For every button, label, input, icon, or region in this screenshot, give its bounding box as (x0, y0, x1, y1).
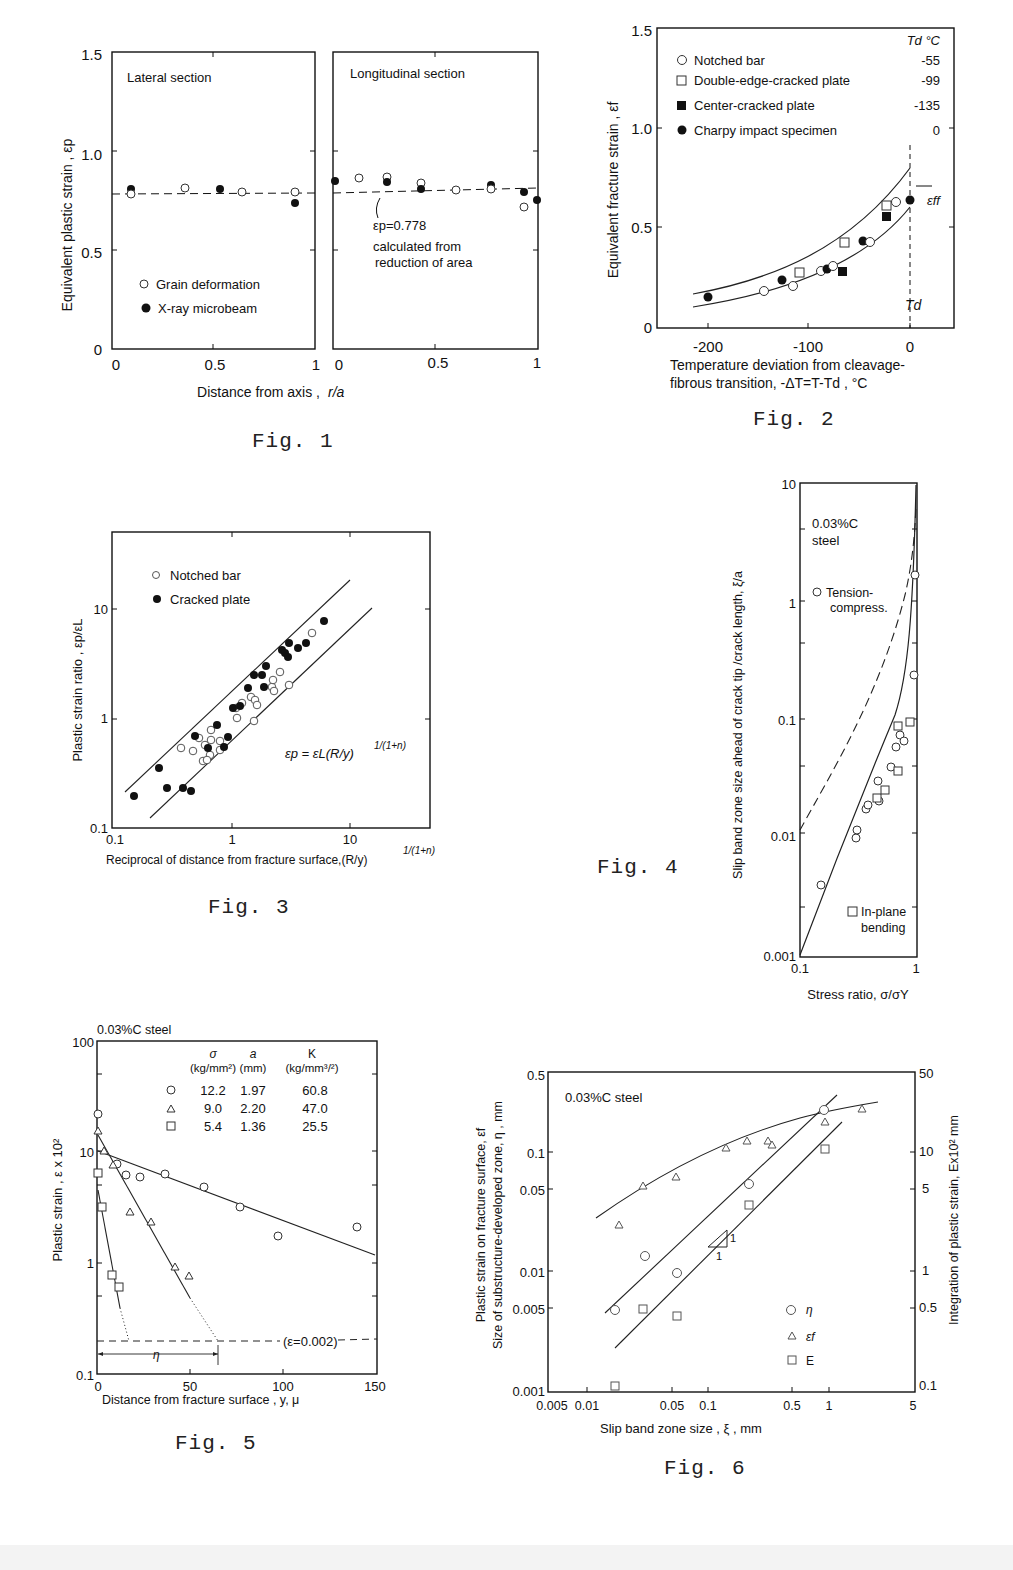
fig2-legend-item: Charpy impact specimen (694, 123, 837, 138)
fig6-ytick-left: 0.05 (520, 1183, 545, 1198)
fig1-panel-label-longitudinal: Longitudinal section (350, 66, 465, 81)
fig1-annotation-line2: calculated from (373, 239, 461, 254)
fig5-header-a-unit: (mm) (240, 1062, 267, 1074)
fig2-legend-item: Center-cracked plate (694, 98, 815, 113)
fig6-ytick-right: 10 (919, 1144, 933, 1159)
fig5-xlabel: Distance from fracture surface , y, μ (102, 1393, 299, 1407)
fig6-xtick: 0.1 (699, 1399, 716, 1413)
fig2-caption: Fig. 2 (753, 408, 835, 431)
fig4-ytick: 0.01 (771, 829, 796, 844)
figure-4: Slip band zone size ahead of crack tip /… (730, 475, 960, 1005)
fig6-xlabel: Slip band zone size , ξ , mm (600, 1421, 762, 1436)
fig5-xtick: 150 (364, 1379, 386, 1394)
fig6-chart: Plastic strain on fracture surface, εf S… (470, 1060, 970, 1440)
fig2-chart: Equivalent fracture strain , εf 0 0.5 1.… (600, 20, 960, 400)
fig5-xtick: 0 (94, 1379, 101, 1394)
fig1-xlabel-var: r/a (328, 384, 345, 400)
fig1-legend-open: Grain deformation (156, 277, 260, 292)
fig1-legend-filled: X-ray microbeam (158, 301, 257, 316)
legend-triangle-icon (167, 1105, 175, 1112)
legend-open-circle-icon (678, 56, 687, 65)
legend-open-circle-icon (813, 588, 821, 596)
fig2-xtick: -200 (693, 338, 723, 355)
fig1-annotation-line3: reduction of area (375, 255, 473, 270)
fig6-xtick: 1 (826, 1399, 833, 1413)
figure-5: 0.03%C steel Plastic strain , ε x 10² 10… (40, 1020, 400, 1405)
fig1-caption: Fig. 1 (252, 430, 334, 453)
fig6-legend-eta: η (806, 1303, 813, 1317)
fig6-line-eta (605, 1095, 837, 1313)
fig1-xtick: 0.5 (428, 354, 449, 371)
fig6-ytick-left: 0.001 (512, 1384, 545, 1399)
fig2-lower-curve (693, 207, 910, 307)
fig5-header-k: K (308, 1047, 316, 1061)
fig6-ylabel-right: Integration of plastic strain, Ex10² mm (947, 1115, 961, 1325)
legend-circle-icon (787, 1306, 796, 1315)
fig6-ytick-right: 5 (922, 1181, 929, 1196)
fig5-caption: Fig. 5 (175, 1432, 257, 1455)
fig2-td-label: Td (905, 297, 923, 313)
fig5-ytick: 0.1 (76, 1368, 94, 1383)
fig6-slope-label: 1 (730, 1232, 736, 1244)
fig5-header-k-unit: (kg/mm³/²) (285, 1062, 338, 1074)
fig1-xtick: 1 (312, 356, 320, 373)
scan-bottom-edge (0, 1545, 1013, 1570)
fig2-ytick: 1.0 (631, 120, 652, 137)
fig6-slope-label: 1 (716, 1250, 722, 1262)
fig6-ytick-right: 0.1 (919, 1378, 937, 1393)
fig3-xtick: 0.1 (106, 832, 124, 847)
fig1-reference-line (112, 193, 315, 194)
fig4-xlabel: Stress ratio, σ/σY (807, 987, 909, 1002)
fig6-title: 0.03%C steel (565, 1090, 642, 1105)
fig3-equation: εp = εL(R/y) (285, 746, 354, 761)
fig2-ylabel: Equivalent fracture strain , εf (605, 102, 621, 279)
legend-square-icon (167, 1122, 175, 1130)
fig5-cell: 9.0 (204, 1101, 222, 1116)
fig3-caption: Fig. 3 (208, 896, 290, 919)
fig5-eta-label: η (153, 1348, 160, 1362)
fig3-xlabel-exp: 1/(1+n) (403, 845, 435, 856)
fig2-legend-item: Double-edge-cracked plate (694, 73, 850, 88)
fig3-legend-open: Notched bar (170, 568, 241, 583)
fig1-panel-lateral: Lateral section Grain deformation X-ray … (112, 52, 315, 349)
legend-filled-square-icon (677, 101, 686, 110)
legend-filled-circle-icon (678, 126, 687, 135)
legend-open-square-icon (677, 76, 686, 85)
fig5-cell: 25.5 (302, 1119, 327, 1134)
fig1-xtick: 0 (112, 356, 120, 373)
fig1-xtick: 0.5 (205, 356, 226, 373)
fig4-xtick: 1 (912, 961, 919, 976)
fig6-legend-e: E (806, 1354, 814, 1368)
fig2-ytick: 0 (644, 319, 652, 336)
fig4-legend-circle-line1: Tension- (826, 586, 873, 600)
fig3-chart: Plastic strain ratio , εp/εL 0.1 1 10 0.… (60, 520, 440, 880)
fig1-xtick: 0 (335, 356, 343, 373)
fig2-xtick: -100 (793, 338, 823, 355)
fig6-slope-triangle-icon (708, 1230, 727, 1247)
fig6-ylabel-line1: Plastic strain on fracture surface, εf (474, 1127, 488, 1322)
fig1-annotation-eq: εp=0.778 (373, 218, 426, 233)
fig1-ylabel: Equivalent plastic strain , εp (59, 138, 75, 311)
fig4-title-line2: steel (812, 533, 840, 548)
fig2-ytick: 1.5 (631, 22, 652, 39)
fig3-equation-exp: 1/(1+n) (374, 740, 406, 751)
fig3-xlabel: Reciprocal of distance from fracture sur… (106, 853, 367, 867)
figure-1: Equivalent plastic strain , εp 0 0.5 1.0… (50, 40, 560, 410)
fig4-ytick: 10 (782, 477, 796, 492)
fig5-cell: 5.4 (204, 1119, 222, 1134)
fig6-xtick: 0.5 (783, 1399, 800, 1413)
fig6-xtick: 0.005 (536, 1399, 567, 1413)
fig6-curve-ef (596, 1102, 878, 1218)
fig5-header-a: a (250, 1047, 257, 1061)
fig5-header-sigma-unit: (kg/mm²) (190, 1062, 236, 1074)
fig2-ytick: 0.5 (631, 219, 652, 236)
fig5-ytick: 1 (87, 1256, 94, 1271)
fig1-chart: Equivalent plastic strain , εp 0 0.5 1.0… (50, 40, 560, 410)
legend-square-icon (788, 1356, 796, 1364)
legend-open-circle-icon (167, 1086, 175, 1094)
fig6-xtick: 0.01 (575, 1399, 599, 1413)
legend-filled-circle-icon (153, 595, 161, 603)
fig6-ylabel-line2: Size of substructure-developed zone, η ,… (491, 1101, 505, 1349)
fig3-ylabel: Plastic strain ratio , εp/εL (70, 618, 85, 761)
fig6-ytick-left: 0.01 (520, 1265, 545, 1280)
